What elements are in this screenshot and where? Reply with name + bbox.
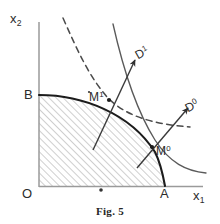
point-label-m1-superscript: 1	[99, 90, 104, 99]
origin-label: O	[22, 187, 32, 200]
y-axis-label: x2	[10, 12, 22, 27]
figure-caption: Fig. 5	[0, 205, 220, 217]
y-axis-label-subscript: 2	[17, 18, 22, 28]
figure-container: x2 x1 B O A M1 M0 D1 D0 Fig. 5	[0, 0, 220, 224]
x-axis-label-subscript: 1	[200, 195, 205, 205]
point-label-a: A	[160, 187, 169, 200]
point-label-m0-superscript: 0	[166, 144, 171, 153]
x-axis-label: x1	[193, 189, 205, 204]
x-axis-tick-marker	[99, 188, 103, 192]
point-label-b: B	[24, 88, 33, 101]
point-marker-m1	[107, 98, 111, 102]
point-label-m0: M0	[156, 145, 171, 157]
point-label-m1: M1	[89, 91, 104, 103]
point-marker-m0	[150, 145, 154, 149]
